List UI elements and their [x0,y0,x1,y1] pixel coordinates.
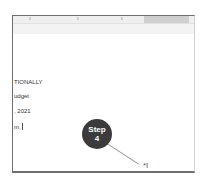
text-caret [22,123,23,130]
ruler-tick: 6 [121,17,123,21]
document-line-text: m. [14,124,21,130]
step-label: Step [82,125,112,134]
document-line[interactable]: TIONALLY [14,79,43,85]
ruler-tick: 4 [29,17,31,21]
document-line[interactable]: , 2021 [14,108,31,114]
document-line-current[interactable]: m. [14,123,23,130]
step-callout: Step 4 [82,119,112,149]
document-line[interactable]: udget [14,93,29,99]
ruler[interactable]: 4 5 6 [13,16,194,24]
ibeam-cursor-icon: *I [143,161,148,170]
ruler-band [13,24,194,34]
step-number: 4 [82,134,112,143]
document-window: 4 5 6 TIONALLY udget , 2021 m. [12,15,195,173]
ruler-tick: 5 [77,17,79,21]
ruler-margin [144,16,189,23]
